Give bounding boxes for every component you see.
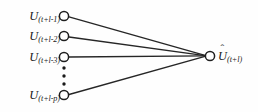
input-node-3 [59,52,68,61]
output-node-base-wrap: ˆU [218,50,227,63]
output-node-subscript: (t+l) [227,55,242,64]
input-node-2-subscript: (t+l-2) [38,35,60,44]
input-node-1-base: U [29,9,38,23]
input-node-2-base: U [29,29,38,43]
edge-u1-to-output [69,17,205,56]
circumflex-hat-icon: ˆ [220,43,224,54]
diagram-canvas: U(t+l-1) U(t+l-2) U(t+l-3) U(t+l-p) ˆU(t… [0,0,258,112]
input-node-2 [59,31,68,40]
vertical-ellipsis-dot-3 [62,82,65,85]
input-node-1-label: U(t+l-1) [29,10,60,23]
edge-u3-to-output [69,56,205,57]
output-node-label: ˆU(t+l) [218,50,242,63]
input-node-2-label: U(t+l-2) [29,30,60,43]
input-node-p [59,90,68,99]
output-node [205,51,214,60]
input-node-1 [59,11,68,20]
input-node-3-label: U(t+l-3) [29,51,60,64]
vertical-ellipsis-dot-2 [62,74,65,77]
edge-up-to-output [69,56,205,94]
vertical-ellipsis-dot-1 [62,66,65,69]
input-node-3-subscript: (t+l-3) [38,56,60,65]
input-node-p-label: U(t+l-p) [29,89,60,102]
edge-u2-to-output [69,37,205,56]
input-node-3-base: U [29,50,38,64]
input-node-p-subscript: (t+l-p) [38,94,60,103]
input-node-1-subscript: (t+l-1) [38,15,60,24]
input-node-p-base: U [29,88,38,102]
